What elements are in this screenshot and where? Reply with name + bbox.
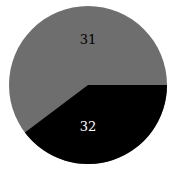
pie-chart: 31 32	[0, 0, 176, 177]
slice-label-32: 32	[80, 119, 97, 134]
slice-label-31: 31	[80, 32, 97, 47]
